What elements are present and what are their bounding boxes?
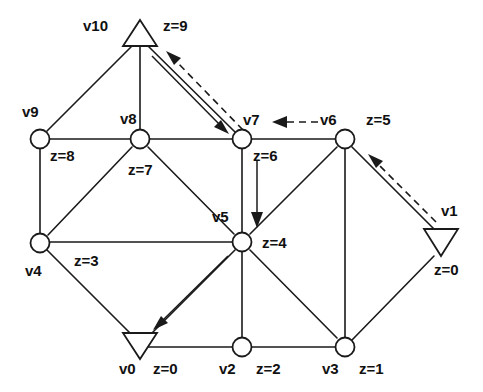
z-label-v3: z=1 [359, 361, 384, 376]
graph-canvas [0, 0, 483, 392]
edge-v10-v7 [147, 45, 235, 132]
node-v7[interactable] [233, 130, 252, 149]
z-label-v2: z=2 [256, 361, 281, 376]
z-label-v6: z=5 [366, 112, 391, 127]
node-label-v2: v2 [219, 361, 236, 376]
z-label-v10: z=9 [163, 18, 188, 33]
node-v1[interactable] [424, 229, 458, 256]
node-v0[interactable] [123, 333, 157, 359]
node-v5[interactable] [233, 233, 252, 252]
dashed-arrow-v6-to-v7 [272, 116, 318, 128]
node-label-v0: v0 [119, 361, 136, 376]
edge-layer [40, 45, 434, 347]
node-v2[interactable] [233, 338, 252, 357]
node-label-v1: v1 [441, 203, 458, 218]
dashed-arrow-v7-to-v10 [166, 51, 243, 130]
solid-arrow-v10-to-v7 [152, 56, 229, 134]
node-label-v8: v8 [120, 111, 137, 126]
graph-diagram: v10 z=9 v9 v8 v7 v6 z=5 z=8 z=6 z=7 v5 v… [0, 0, 483, 392]
z-label-v8: z=7 [128, 162, 153, 177]
node-v6[interactable] [336, 130, 355, 149]
node-label-v6: v6 [320, 112, 337, 127]
solid-arrow-v7-to-v5 [251, 161, 263, 228]
z-label-v1: z=0 [434, 262, 459, 277]
node-label-v5: v5 [212, 209, 229, 224]
edge-v5-v3 [250, 250, 337, 338]
z-label-v4: z=3 [74, 253, 99, 268]
edge-v3-v1 [352, 256, 434, 340]
node-v9[interactable] [31, 130, 50, 149]
dashed-arrow-v1-to-v6 [368, 154, 436, 222]
node-label-v9: v9 [22, 104, 39, 119]
z-label-v0: z=0 [153, 361, 178, 376]
node-label-v10: v10 [83, 18, 108, 33]
z-label-v5: z=4 [262, 235, 287, 250]
z-label-v9: z=8 [50, 148, 75, 163]
z-label-v7: z=6 [253, 148, 278, 163]
solid-arrow-v5-to-v0 [153, 256, 228, 330]
edge-v6-v1 [352, 147, 434, 229]
node-v8[interactable] [131, 130, 150, 149]
node-v4[interactable] [31, 234, 50, 253]
node-label-v3: v3 [322, 361, 339, 376]
node-label-v7: v7 [243, 112, 260, 127]
node-v10[interactable] [123, 20, 157, 46]
node-label-v4: v4 [25, 263, 42, 278]
node-v3[interactable] [336, 338, 355, 357]
